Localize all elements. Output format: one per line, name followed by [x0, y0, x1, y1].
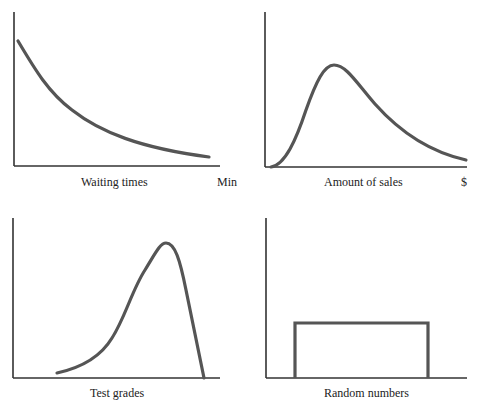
uniform-rectangle [295, 323, 428, 378]
chart-amount-of-sales [265, 12, 467, 167]
chart-waiting-times [14, 12, 220, 166]
waiting-times-unit: Min [217, 175, 237, 190]
chart-test-grades [13, 218, 220, 378]
exponential-curve [18, 41, 209, 157]
distribution-charts [0, 0, 485, 409]
test-grades-xlabel: Test grades [90, 386, 144, 401]
chart-random-numbers [266, 218, 467, 378]
left-skewed-curve [57, 243, 204, 378]
amount-of-sales-unit: $ [461, 175, 467, 190]
waiting-times-xlabel: Waiting times [81, 175, 148, 190]
random-numbers-xlabel: Random numbers [324, 386, 409, 401]
right-skewed-curve [271, 65, 466, 167]
amount-of-sales-xlabel: Amount of sales [324, 175, 403, 190]
